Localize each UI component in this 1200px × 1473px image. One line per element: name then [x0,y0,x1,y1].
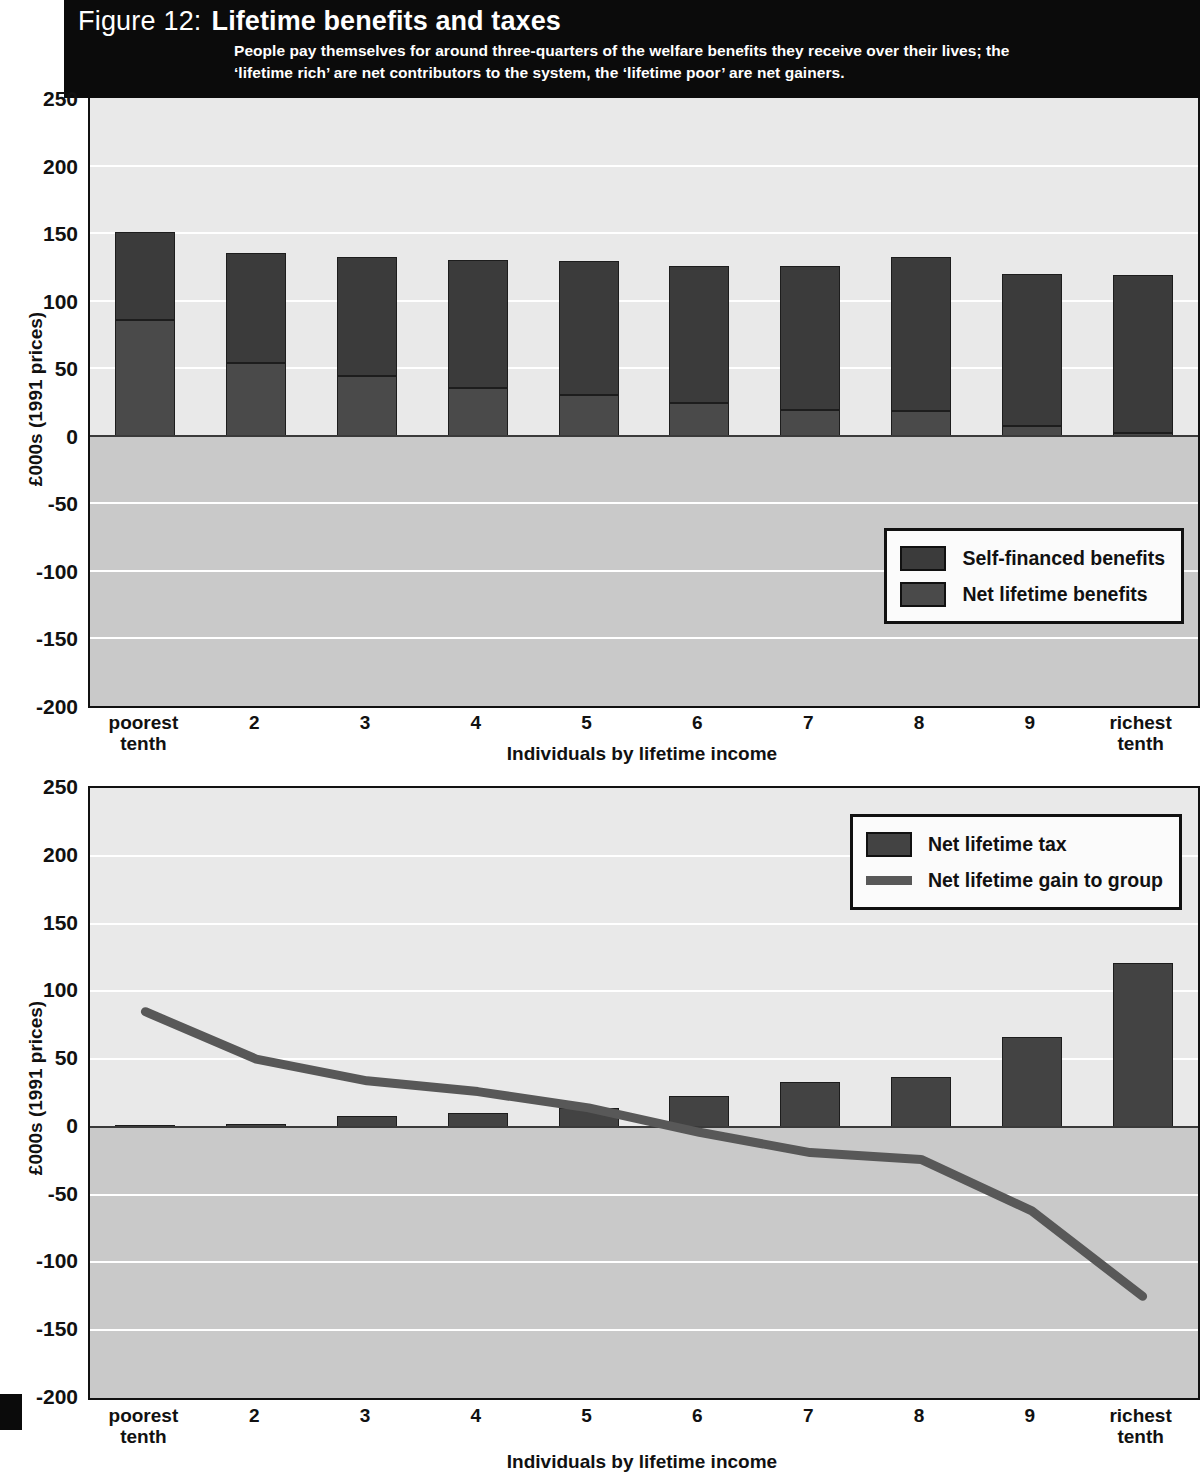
x-axis-tick-label: tenth [1066,1426,1200,1447]
bar-segment-self-financed [1002,274,1062,427]
y-axis-tick-label: -100 [8,1250,78,1271]
gridline [90,637,1198,639]
bar-stacked [448,260,508,436]
y-axis-tick-label: -150 [8,1318,78,1339]
x-axis-tick-label: tenth [68,1426,218,1447]
figure-subtitle: People pay themselves for around three-q… [234,40,1186,84]
y-axis-tick-label: -50 [8,1182,78,1203]
bar-stacked [115,232,175,436]
chart-taxes-x-axis-title: Individuals by lifetime income [342,1451,942,1473]
figure-subtitle-line-1: People pay themselves for around three-q… [234,40,1186,62]
figure-number: Figure 12: [78,6,202,37]
figure-subtitle-line-2: ‘lifetime rich’ are net contributors to … [234,62,1186,84]
chart-taxes-plot-area: Net lifetime tax Net lifetime gain to gr… [88,786,1200,1400]
y-axis-tick-label: -200 [8,1386,78,1407]
y-axis-tick-label: 200 [8,843,78,864]
bar-segment-self-financed [780,266,840,411]
bar-segment-net-benefits [337,376,397,435]
bar-segment-net-benefits [226,363,286,436]
legend-item-self-financed-benefits[interactable]: Self-financed benefits [900,540,1165,576]
bar-stacked [337,257,397,435]
net-lifetime-gain-polyline [145,1012,1142,1297]
bar-stacked [891,257,951,435]
chart-benefits-plot-area: Self-financed benefits Net lifetime bene… [88,98,1200,708]
chart-benefits-y-axis-title: £000s (1991 prices) [25,279,47,519]
bar-stacked [1002,274,1062,436]
y-axis-tick-label: -100 [8,560,78,581]
y-axis-tick-label: -50 [8,493,78,514]
y-axis-tick-label: 0 [8,1114,78,1135]
y-axis-tick-label: 50 [8,358,78,379]
bar-stacked [226,253,286,435]
chart-benefits-x-axis-title: Individuals by lifetime income [342,743,942,765]
y-axis-tick-label: 150 [8,911,78,932]
legend-swatch-self-financed-icon [900,546,946,571]
legend-item-net-lifetime-tax[interactable]: Net lifetime tax [866,826,1163,862]
bar-segment-self-financed [559,261,619,395]
x-axis-tick: richesttenth [1066,712,1200,755]
figure-header-banner: Figure 12: Lifetime benefits and taxes P… [64,0,1200,98]
bar-stacked [669,266,729,436]
y-axis-tick-label: 50 [8,1047,78,1068]
bar-stacked [1113,275,1173,436]
x-axis-tick-label: tenth [1066,733,1200,754]
x-axis-tick-label: tenth [68,733,218,754]
bar-segment-self-financed [1113,275,1173,433]
y-axis-tick-label: 100 [8,979,78,1000]
legend-item-net-lifetime-benefits[interactable]: Net lifetime benefits [900,576,1165,612]
chart-taxes-legend[interactable]: Net lifetime tax Net lifetime gain to gr… [850,814,1182,910]
gridline [90,502,1198,504]
chart-taxes-panel: £000s (1991 prices) 250200150100500-50-1… [0,778,1200,1463]
bar-segment-net-benefits [669,403,729,435]
y-axis-tick-label: 200 [8,155,78,176]
y-axis-tick-label: 250 [8,88,78,109]
legend-swatch-gain-line-icon [866,876,912,885]
y-axis-tick-label: 100 [8,290,78,311]
bar-segment-self-financed [226,253,286,362]
legend-label-net-tax: Net lifetime tax [928,833,1067,856]
bar-stacked [780,266,840,436]
bar-segment-self-financed [891,257,951,411]
y-axis-tick-label: 0 [8,425,78,446]
figure-header-title-line: Figure 12: Lifetime benefits and taxes [78,6,1186,37]
bar-segment-self-financed [115,232,175,320]
y-axis-tick-label: 250 [8,776,78,797]
x-axis-tick: richesttenth [1066,1405,1200,1448]
gridline [90,232,1198,234]
legend-label-net-benefits: Net lifetime benefits [962,583,1147,606]
bar-segment-net-benefits [780,410,840,436]
bar-segment-net-benefits [559,395,619,436]
legend-label-net-gain: Net lifetime gain to group [928,869,1163,892]
y-axis-tick-label: 150 [8,223,78,244]
bar-segment-net-benefits [448,388,508,435]
bar-segment-self-financed [669,266,729,404]
y-axis-tick-label: -150 [8,628,78,649]
chart-benefits-legend[interactable]: Self-financed benefits Net lifetime bene… [884,528,1184,624]
bar-segment-net-benefits [891,411,951,435]
legend-item-net-lifetime-gain[interactable]: Net lifetime gain to group [866,862,1163,898]
legend-label-self-financed: Self-financed benefits [962,547,1165,570]
gridline [90,165,1198,167]
legend-swatch-net-benefits-icon [900,582,946,607]
chart-benefits-zero-line [90,435,1198,437]
chart-benefits-panel: £000s (1991 prices) 250200150100500-50-1… [0,98,1200,766]
bar-stacked [559,261,619,435]
figure-title: Lifetime benefits and taxes [212,6,561,37]
x-axis-tick-label: richest [1066,712,1200,733]
bar-segment-self-financed [448,260,508,388]
legend-swatch-net-tax-icon [866,832,912,857]
bar-segment-self-financed [337,257,397,376]
bar-segment-net-benefits [115,320,175,436]
chart-taxes-y-axis-title: £000s (1991 prices) [25,968,47,1208]
x-axis-tick-label: richest [1066,1405,1200,1426]
